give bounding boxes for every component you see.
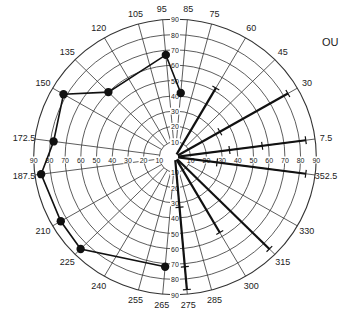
angle-label: 285: [207, 295, 222, 305]
scale-label: 70: [171, 47, 179, 54]
grid-spoke: [75, 60, 164, 147]
grid-spoke: [186, 60, 275, 147]
angle-label: 240: [91, 281, 106, 291]
scale-label: 80: [297, 157, 305, 164]
scale-label: 60: [171, 246, 179, 253]
bar-tick: [262, 142, 263, 150]
bar-tick: [305, 170, 306, 178]
scale-label: 90: [312, 157, 320, 164]
bar-tick: [217, 158, 218, 166]
angle-label: 60: [246, 23, 256, 33]
grid-spoke: [138, 24, 171, 142]
angle-label: 275: [181, 300, 196, 310]
scale-label: 40: [171, 215, 179, 222]
scale-label: 50: [171, 231, 179, 238]
angle-label: 45: [278, 47, 288, 57]
scale-label: 70: [281, 157, 289, 164]
scale-label: 50: [93, 157, 101, 164]
angle-label: 225: [60, 257, 75, 267]
angle-label: 95: [157, 4, 167, 14]
angle-label: 330: [299, 226, 314, 236]
scale-label: 60: [171, 62, 179, 69]
chart-title: OU: [322, 36, 339, 48]
angle-label: 30: [302, 78, 312, 88]
data-point-marker: [177, 89, 185, 97]
angle-label: 352.5: [315, 171, 338, 181]
scale-label: 10: [155, 157, 163, 164]
scale-label: 70: [171, 261, 179, 268]
data-point-marker: [161, 263, 169, 271]
scale-label: 10: [171, 139, 179, 146]
grid-spoke: [138, 172, 171, 290]
data-point-marker: [57, 217, 65, 225]
bar-tick: [183, 289, 191, 290]
angle-label: 120: [91, 23, 106, 33]
grid-spoke: [189, 165, 298, 226]
grid-spoke: [53, 165, 162, 226]
angle-label: 172.5: [13, 133, 36, 143]
scale-label: 40: [108, 157, 116, 164]
scale-label: 30: [124, 157, 132, 164]
bar-tick: [176, 207, 184, 208]
grid-spoke: [75, 168, 164, 255]
angle-label: 105: [128, 9, 143, 19]
polar-chart: 1010101020202020303030304040404050505050…: [0, 0, 350, 318]
data-point-marker: [104, 88, 112, 96]
grid-spoke: [104, 38, 167, 144]
bar-tick: [305, 136, 306, 144]
scale-label: 90: [171, 292, 179, 299]
angle-label: 85: [183, 4, 193, 14]
scale-label: 70: [61, 157, 69, 164]
angle-label: 315: [275, 257, 290, 267]
scale-label: 50: [250, 157, 258, 164]
data-point-marker: [49, 137, 57, 145]
bar-tick: [181, 266, 189, 267]
angle-label: 75: [209, 9, 219, 19]
scale-label: 60: [77, 157, 85, 164]
angle-label: 265: [154, 300, 169, 310]
scale-label: 60: [265, 157, 273, 164]
radial-bar: [178, 140, 306, 156]
grid-spoke: [53, 88, 162, 149]
scale-label: 80: [171, 32, 179, 39]
angle-label: 187.5: [13, 171, 36, 181]
angle-label: 210: [36, 226, 51, 236]
scale-label: 20: [171, 123, 179, 130]
angle-label: 300: [244, 281, 259, 291]
scale-label: 90: [171, 16, 179, 23]
data-point-marker: [76, 245, 84, 253]
data-point-marker: [162, 51, 170, 59]
bar-tick: [229, 146, 230, 154]
data-point-marker: [37, 170, 45, 178]
data-point-marker: [59, 90, 67, 98]
angle-label: 135: [60, 47, 75, 57]
scale-label: 30: [171, 200, 179, 207]
angle-label: 255: [128, 295, 143, 305]
scale-label: 80: [171, 276, 179, 283]
angle-label: 150: [36, 78, 51, 88]
scale-label: 90: [30, 157, 38, 164]
scale-label: 10: [171, 169, 179, 176]
angle-label: 7.5: [320, 133, 333, 143]
scale-label: 30: [171, 108, 179, 115]
scale-label: 20: [140, 157, 148, 164]
radial-bar: [177, 160, 220, 233]
scale-label: 40: [234, 157, 242, 164]
